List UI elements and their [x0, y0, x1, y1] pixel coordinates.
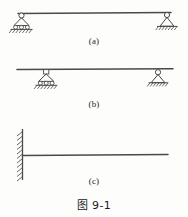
roller-support-left-a [9, 13, 32, 33]
panel-label-a: (a) [0, 36, 188, 46]
beam-member-b [17, 69, 173, 70]
fixed-support-hatching-c [17, 132, 23, 182]
panel-c [17, 129, 168, 181]
ground-hatching-right-b [147, 83, 168, 87]
figure-caption: 图 9-1 [0, 196, 188, 212]
ground-hatching-left-b [34, 85, 57, 89]
panel-b [17, 69, 173, 89]
beam-diagram-figure: (a) (b) (c) 图 9-1 [0, 0, 188, 217]
ground-hatching-left-a [9, 29, 32, 33]
beam-member-a [18, 13, 171, 14]
panel-label-c: (c) [0, 176, 188, 186]
panel-a [9, 12, 177, 33]
pin-support-right-b [147, 70, 168, 87]
beam-member-c [23, 154, 169, 155]
pin-support-right-a [156, 12, 178, 30]
roller-support-left-b [34, 70, 57, 89]
ground-hatching-right-a [156, 26, 177, 30]
panel-label-b: (b) [0, 99, 188, 109]
